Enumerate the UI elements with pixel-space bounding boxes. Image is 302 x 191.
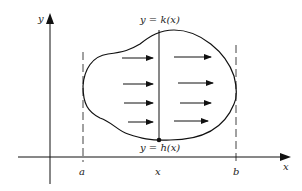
- x-axis: [18, 153, 291, 161]
- x-axis-arrowhead-icon: [280, 153, 291, 161]
- y-axis-arrowhead-icon: [46, 13, 54, 24]
- flow-arrows: [122, 57, 213, 122]
- y-axis: [46, 13, 54, 184]
- lower-curve-label: y = h(x): [139, 142, 180, 153]
- upper-curve-label: y = k(x): [139, 14, 180, 25]
- y-axis-label: y: [37, 13, 44, 24]
- slice-x-label: x: [155, 166, 161, 177]
- bound-a-label: a: [79, 166, 85, 177]
- region-diagram: y x a b x y = k(x) y = h(x): [0, 0, 302, 191]
- bound-b-label: b: [233, 166, 239, 177]
- region-boundary: [83, 30, 236, 140]
- x-axis-label: x: [283, 161, 289, 172]
